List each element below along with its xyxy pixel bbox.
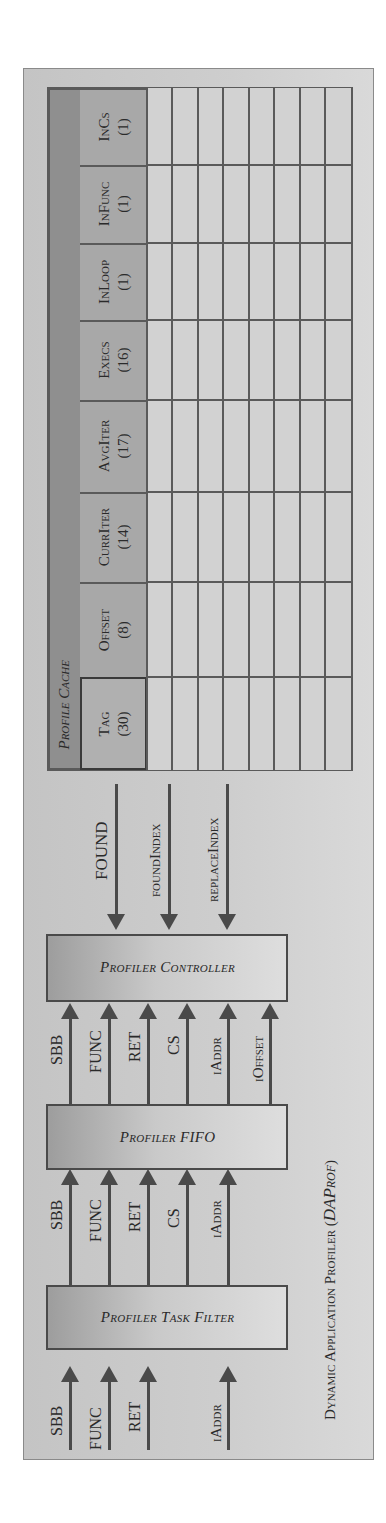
fifo-label: Profiler FIFO bbox=[119, 1128, 215, 1145]
arrow-iaddr-in bbox=[227, 1372, 230, 1450]
arrow-ioffset-fifo bbox=[269, 1009, 272, 1104]
profiler-task-filter-block: Profiler Task Filter bbox=[46, 1285, 288, 1350]
label-iaddr-fifo: iAddr bbox=[209, 1037, 224, 1075]
label-func-in: FUNC bbox=[88, 1407, 104, 1450]
arrow-func-fifo bbox=[108, 1009, 111, 1104]
label-iaddr-in: iAddr bbox=[209, 1404, 224, 1442]
arrow-ret-tf bbox=[147, 1175, 150, 1285]
arrow-sbb-in bbox=[69, 1372, 72, 1450]
label-iaddr-tf: iAddr bbox=[209, 1200, 224, 1238]
label-ret-fifo: RET bbox=[127, 1032, 143, 1062]
controller-label: Profiler Controller bbox=[100, 960, 235, 977]
label-cs-tf: CS bbox=[166, 1208, 182, 1228]
arrow-ret-in bbox=[147, 1372, 150, 1450]
label-foundindex: foundIndex bbox=[148, 824, 163, 897]
label-ret-tf: RET bbox=[127, 1202, 143, 1232]
task-filter-label: Profiler Task Filter bbox=[100, 1309, 233, 1326]
arrow-func-in bbox=[108, 1372, 111, 1450]
label-found: FOUND bbox=[93, 821, 110, 880]
arrow-ret-fifo bbox=[147, 1009, 150, 1104]
arrow-cs-tf bbox=[186, 1175, 189, 1285]
arrow-iaddr-fifo bbox=[227, 1009, 230, 1104]
profiler-fifo-block: Profiler FIFO bbox=[46, 1104, 288, 1170]
label-func-tf: FUNC bbox=[88, 1199, 104, 1242]
profiler-controller-block: Profiler Controller bbox=[46, 934, 288, 1002]
label-ret-in: RET bbox=[127, 1402, 143, 1432]
arrow-cs-fifo bbox=[186, 1009, 189, 1104]
label-cs-fifo: CS bbox=[166, 1035, 182, 1055]
label-sbb-in: SBB bbox=[49, 1406, 65, 1436]
profile-cache-title: Profile Cache bbox=[57, 660, 74, 750]
label-ioffset-fifo: iOffset bbox=[251, 1036, 266, 1082]
label-sbb-fifo: SBB bbox=[49, 1035, 65, 1065]
arrow-func-tf bbox=[108, 1175, 111, 1285]
arrow-foundindex bbox=[168, 784, 171, 924]
label-func-fifo: FUNC bbox=[88, 1030, 104, 1073]
arrow-sbb-fifo bbox=[69, 1009, 72, 1104]
arrow-iaddr-tf bbox=[227, 1175, 230, 1285]
label-replaceindex: replaceIndex bbox=[206, 818, 221, 902]
arrow-sbb-tf bbox=[69, 1175, 72, 1285]
profile-cache: Profile Cache bbox=[47, 87, 353, 771]
arrow-replaceindex bbox=[226, 784, 229, 924]
label-sbb-tf: SBB bbox=[49, 1200, 65, 1230]
arrow-found bbox=[115, 784, 118, 924]
dap-diagram: SBB FUNC RET iAddr Profiler Task Filter … bbox=[23, 68, 374, 1460]
